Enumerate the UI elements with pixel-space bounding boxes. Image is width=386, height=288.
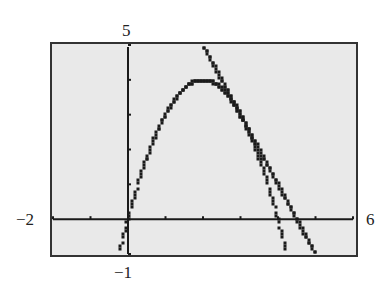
graph-screen (51, 43, 357, 256)
calculator-graph (0, 0, 386, 288)
y-max-label: 5 (122, 22, 131, 39)
x-max-label: 6 (366, 211, 375, 228)
y-min-label: −1 (114, 264, 132, 281)
x-min-label: −2 (16, 211, 34, 228)
